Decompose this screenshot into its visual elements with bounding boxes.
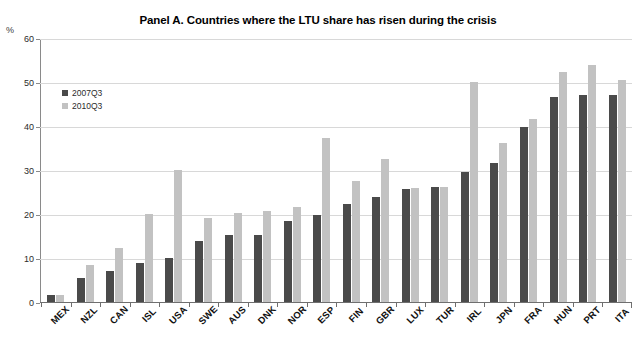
x-label-cell: IRL [455, 305, 485, 351]
y-tick-label: 50 [10, 78, 34, 88]
x-label-cell: PRT [574, 305, 604, 351]
bar-fra-2010q3 [529, 119, 537, 302]
legend-swatch-2010q3-icon [62, 103, 68, 109]
bar-swe-2007q3 [195, 241, 203, 302]
x-label-cell: ESP [307, 305, 337, 351]
bar-nzl-2010q3 [86, 265, 94, 302]
bar-lux-2007q3 [402, 189, 410, 302]
bar-group [366, 39, 396, 302]
bar-isl-2010q3 [145, 214, 153, 302]
x-tick-label-ita: ITA [613, 306, 632, 325]
y-tick-label: 30 [10, 166, 34, 176]
cut-off-header-text [0, 0, 636, 6]
x-label-cell: NOR [278, 305, 308, 351]
y-tick-label: 40 [10, 122, 34, 132]
bar-lux-2010q3 [411, 188, 419, 302]
bar-jpn-2010q3 [499, 143, 507, 302]
bar-esp-2010q3 [322, 138, 330, 302]
x-tick-label-usa: USA [167, 304, 189, 326]
x-tick-label-fra: FRA [522, 304, 544, 326]
bar-aus-2010q3 [234, 213, 242, 302]
bar-group [41, 39, 71, 302]
bar-group [71, 39, 101, 302]
x-label-cell: HUN [544, 305, 574, 351]
bar-aus-2007q3 [225, 235, 233, 302]
bar-group [455, 39, 485, 302]
bar-group [159, 39, 189, 302]
x-tick-label-gbr: GBR [374, 303, 397, 326]
bar-irl-2007q3 [461, 172, 469, 302]
y-tick-label: 60 [10, 34, 34, 44]
legend-item-2010q3: 2010Q3 [62, 99, 102, 112]
x-tick-label-can: CAN [107, 304, 130, 327]
bar-fin-2010q3 [352, 181, 360, 302]
chart-title: Panel A. Countries where the LTU share h… [0, 14, 636, 26]
legend-item-2007q3: 2007Q3 [62, 86, 102, 99]
x-label-cell: DNK [248, 305, 278, 351]
x-label-cell: GBR [367, 305, 397, 351]
bar-group [189, 39, 219, 302]
legend-label-2010q3: 2010Q3 [72, 101, 102, 111]
x-tick-label-nor: NOR [285, 303, 308, 326]
bar-usa-2007q3 [165, 258, 173, 302]
bar-group [277, 39, 307, 302]
bar-group [336, 39, 366, 302]
x-label-cell: FIN [337, 305, 367, 351]
x-tick-label-lux: LUX [404, 304, 426, 326]
bar-group [514, 39, 544, 302]
y-tick-mark [36, 215, 40, 216]
x-label-cell: JPN [485, 305, 515, 351]
x-tick-label-tur: TUR [433, 304, 455, 326]
legend-label-2007q3: 2007Q3 [72, 88, 102, 98]
x-tick-label-prt: PRT [582, 304, 604, 326]
bar-group [484, 39, 514, 302]
bar-mex-2007q3 [47, 295, 55, 302]
bar-swe-2010q3 [204, 218, 212, 302]
x-tick-label-mex: MEX [48, 304, 71, 327]
x-label-cell: ITA [603, 305, 633, 351]
bar-group [543, 39, 573, 302]
y-tick-mark [36, 171, 40, 172]
bar-mex-2010q3 [56, 295, 64, 302]
bar-gbr-2007q3 [372, 197, 380, 302]
bar-group [100, 39, 130, 302]
x-tick-label-isl: ISL [139, 306, 158, 325]
bar-hun-2010q3 [559, 72, 567, 302]
bar-usa-2010q3 [174, 170, 182, 302]
bar-group [425, 39, 455, 302]
y-tick-label: 10 [10, 254, 34, 264]
bar-fra-2007q3 [520, 127, 528, 302]
x-axis-tick-labels: MEXNZLCANISLUSASWEAUSDNKNORESPFINGBRLUXT… [41, 305, 633, 351]
bar-group [307, 39, 337, 302]
bar-tur-2010q3 [440, 187, 448, 302]
bar-group [573, 39, 603, 302]
x-label-cell: CAN [100, 305, 130, 351]
bar-groups [41, 39, 632, 302]
bar-nzl-2007q3 [77, 278, 85, 302]
bar-nor-2007q3 [284, 221, 292, 302]
bar-prt-2007q3 [579, 95, 587, 302]
chart-plot-area [40, 39, 632, 303]
bar-dnk-2007q3 [254, 235, 262, 302]
x-tick-label-esp: ESP [315, 304, 337, 326]
bar-group [602, 39, 632, 302]
x-tick-label-hun: HUN [551, 304, 574, 327]
y-tick-mark [36, 259, 40, 260]
bar-gbr-2010q3 [381, 159, 389, 302]
chart-legend: 2007Q3 2010Q3 [62, 86, 102, 112]
bar-group [396, 39, 426, 302]
y-tick-mark [36, 127, 40, 128]
bar-nor-2010q3 [293, 207, 301, 302]
x-label-cell: TUR [426, 305, 456, 351]
bar-can-2010q3 [115, 248, 123, 302]
x-label-cell: AUS [219, 305, 249, 351]
y-tick-mark [36, 303, 40, 304]
x-tick-label-aus: AUS [226, 304, 248, 326]
bar-irl-2010q3 [470, 82, 478, 302]
legend-swatch-2007q3-icon [62, 90, 68, 96]
x-label-cell: FRA [515, 305, 545, 351]
bar-tur-2007q3 [431, 187, 439, 302]
x-label-cell: NZL [71, 305, 101, 351]
x-tick-label-jpn: JPN [493, 304, 514, 325]
x-tick-label-nzl: NZL [79, 304, 100, 325]
